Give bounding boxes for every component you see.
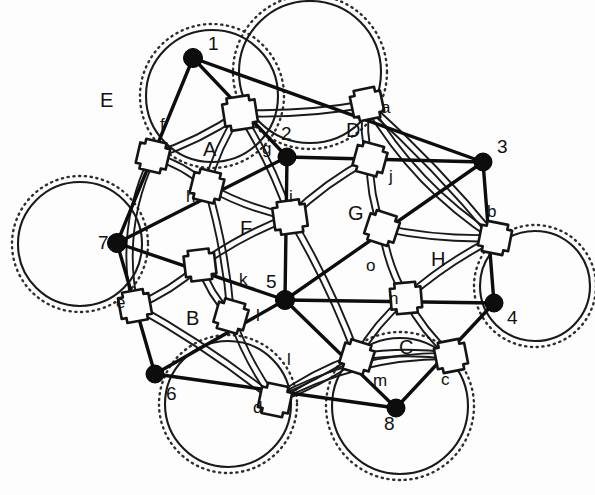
edge-label-h: h xyxy=(186,188,195,205)
vertex-6 xyxy=(146,365,164,383)
medial-node-l1 xyxy=(213,298,248,333)
face-label-B: B xyxy=(186,308,199,328)
face-label-H: H xyxy=(431,249,445,269)
edge-label-l1: l xyxy=(256,307,260,324)
edge-label-c: c xyxy=(441,371,450,388)
vertex-3 xyxy=(474,153,492,171)
vertex-2 xyxy=(278,148,296,166)
edge-label-i: i xyxy=(289,188,293,205)
medial-node-o xyxy=(364,210,400,246)
vertex-label-1: 1 xyxy=(208,34,219,53)
vertex-1 xyxy=(184,49,203,68)
vertex-7 xyxy=(108,234,127,253)
medial-node-d xyxy=(258,383,292,417)
edge-label-b: b xyxy=(487,203,496,220)
edge-label-j: j xyxy=(389,168,393,185)
vertex-label-7: 7 xyxy=(98,233,109,252)
medial-node-g xyxy=(222,95,258,131)
medial-node-j xyxy=(352,141,387,176)
graph-svg xyxy=(0,0,595,495)
vertex-label-3: 3 xyxy=(497,137,508,156)
face-label-A: A xyxy=(203,139,216,159)
vertex-label-6: 6 xyxy=(166,384,177,403)
face-label-G: G xyxy=(348,203,364,223)
medial-node-k xyxy=(184,249,217,282)
edge-label-g: g xyxy=(262,140,271,157)
vertex-label-8: 8 xyxy=(384,414,395,433)
medial-node-m xyxy=(339,339,375,375)
face-label-E: E xyxy=(100,90,113,110)
diagram-canvas: 12345678abcdefghijkllmnoABCDEFGH xyxy=(0,0,595,495)
vertex-label-4: 4 xyxy=(507,308,518,327)
vertex-label-2: 2 xyxy=(281,124,292,143)
face-label-F: F xyxy=(240,218,252,238)
vertex-label-5: 5 xyxy=(266,272,277,291)
medial-band-l1-h xyxy=(210,185,234,315)
edge-label-m: m xyxy=(373,372,387,389)
edge-label-l2: l xyxy=(287,351,291,368)
edge-label-a: a xyxy=(381,99,390,116)
edge-label-n: n xyxy=(389,290,398,307)
medial-node-c xyxy=(434,339,468,373)
edge-label-o: o xyxy=(366,257,375,274)
edge-label-k: k xyxy=(239,271,248,288)
medial-node-b xyxy=(478,221,512,255)
vertex-4 xyxy=(485,294,503,312)
medial-band-g-a xyxy=(240,101,367,110)
vertex-5 xyxy=(276,291,295,310)
edge-label-f: f xyxy=(160,116,165,133)
face-label-C: C xyxy=(399,337,413,357)
medial-node-f xyxy=(136,139,171,174)
edge-label-d: d xyxy=(253,399,262,416)
edge-label-e: e xyxy=(116,294,125,311)
medial-band-l2-i xyxy=(287,218,354,358)
medial-node-a xyxy=(350,87,384,121)
face-label-D: D xyxy=(346,120,360,140)
